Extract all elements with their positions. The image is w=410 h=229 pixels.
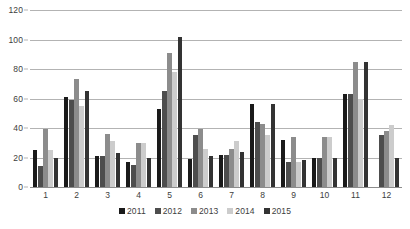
bar [271,104,275,187]
y-axis-tick-mark [24,69,28,70]
legend-label: 2013 [199,206,218,216]
bar [105,134,109,187]
x-axis: 123456789101112 [30,188,402,202]
x-axis-tick-label: 5 [154,188,185,202]
bar [79,106,83,187]
bar [379,135,383,187]
bar [353,62,357,187]
bar [54,158,58,188]
bar [43,129,47,187]
bar [157,109,161,187]
x-axis-tick-label: 10 [309,188,340,202]
bar [296,162,300,187]
y-axis-tick-label: 100 [9,35,23,45]
bar [302,160,306,187]
bar [126,162,130,187]
y-axis-tick-label: 0 [18,182,23,192]
y-axis-tick-label: 20 [13,153,23,163]
x-axis-tick-label: 11 [340,188,371,202]
bar [85,91,89,187]
bar [33,150,37,187]
x-axis-tick-label: 8 [247,188,278,202]
bar [333,158,337,188]
bar-group [278,10,309,187]
y-axis: 020406080100120 [0,10,28,187]
legend-item[interactable]: 2013 [191,206,218,216]
bar [209,156,213,187]
bar-group [185,10,216,187]
bar [131,165,135,187]
y-axis-tick-mark [24,187,28,188]
bar [193,135,197,187]
bar-group [92,10,123,187]
bar-chart: 020406080100120 123456789101112 20112012… [0,0,410,229]
y-axis-tick-label: 60 [13,94,23,104]
bar [224,155,228,187]
x-axis-tick-label: 3 [92,188,123,202]
bar [219,155,223,187]
bar-group [340,10,371,187]
bar [95,156,99,187]
y-axis-tick-mark [24,10,28,11]
legend-label: 2011 [127,206,146,216]
bar-group [247,10,278,187]
legend-label: 2012 [163,206,182,216]
legend-item[interactable]: 2012 [155,206,182,216]
bar [69,100,73,187]
bar [110,141,114,187]
y-axis-tick-mark [24,157,28,158]
chart-legend: 20112012201320142015 [0,206,410,216]
bar-group [154,10,185,187]
bar [312,158,316,188]
bar [38,166,42,187]
legend-swatch-icon [191,208,197,214]
bar [64,97,68,187]
bar [260,124,264,187]
bar [291,137,295,187]
bar [203,149,207,187]
bar [395,158,399,188]
y-axis-tick-mark [24,98,28,99]
bar [255,122,259,187]
bar [343,94,347,187]
bar [141,143,145,187]
bar [265,135,269,187]
x-axis-tick-label: 4 [123,188,154,202]
bar [286,162,290,187]
x-axis-tick-label: 6 [185,188,216,202]
bar [178,37,182,187]
bar-group [123,10,154,187]
bar-group [61,10,92,187]
y-axis-tick-label: 120 [9,5,23,15]
y-axis-tick-label: 40 [13,123,23,133]
bar [327,137,331,187]
legend-swatch-icon [227,208,233,214]
x-axis-tick-label: 1 [30,188,61,202]
bar [358,99,362,188]
bar [100,156,104,187]
bar [147,158,151,188]
x-axis-tick-label: 12 [371,188,402,202]
bar [317,158,321,188]
legend-label: 2015 [272,206,291,216]
bar [322,137,326,187]
bar [116,153,120,187]
legend-item[interactable]: 2014 [227,206,254,216]
legend-label: 2014 [235,206,254,216]
legend-swatch-icon [155,208,161,214]
y-axis-tick-mark [24,128,28,129]
bar-group [30,10,61,187]
bar-groups [30,10,402,187]
bar [188,159,192,187]
bar [348,94,352,187]
legend-item[interactable]: 2011 [119,206,146,216]
bar [234,141,238,187]
plot-area [30,10,402,187]
legend-item[interactable]: 2015 [264,206,291,216]
bar [364,62,368,187]
bar [162,91,166,187]
x-axis-tick-label: 7 [216,188,247,202]
legend-swatch-icon [119,208,125,214]
legend-swatch-icon [264,208,270,214]
bar [74,79,78,187]
